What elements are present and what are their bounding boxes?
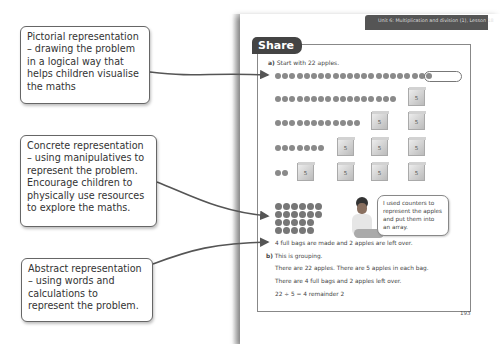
concrete-callout: Concrete representation – using manipula… <box>20 135 157 227</box>
abstract-callout: Abstract representation – using words an… <box>21 258 153 322</box>
abstract-arrow <box>153 242 268 264</box>
pictorial-arrow <box>150 72 268 75</box>
concrete-arrow <box>157 182 268 216</box>
pictorial-callout: Pictorial representation – drawing the p… <box>20 26 150 104</box>
